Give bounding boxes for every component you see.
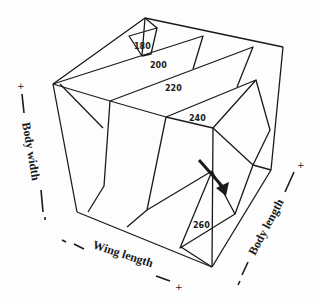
contour-200: 200: [53, 36, 203, 212]
contour-label-200: 200: [150, 61, 167, 70]
contour-label-260: 260: [193, 221, 210, 230]
cube-frame: [53, 18, 283, 267]
wing-length-label: Wing length: [91, 238, 155, 271]
contour-cube-diagram: 180 200 220 240 260 + Body width: [0, 0, 320, 302]
contour-240: 240: [166, 80, 271, 170]
contour-label-240: 240: [189, 114, 206, 123]
contour-220: 220: [110, 47, 253, 227]
body-width-label: Body width: [19, 121, 43, 182]
contour-260: 260: [147, 165, 253, 267]
wing-length-plus: +: [175, 282, 183, 292]
contour-label-180: 180: [134, 42, 151, 51]
contour-label-220: 220: [165, 84, 182, 93]
body-length-label: Body length: [245, 196, 286, 257]
axis-wing-length: Wing length +: [62, 238, 183, 292]
body-width-plus: +: [17, 81, 25, 91]
contour-180: 180: [129, 18, 157, 56]
body-length-plus: +: [297, 160, 305, 170]
axis-body-width: + Body width: [17, 81, 45, 220]
diagram-svg: 180 200 220 240 260 + Body width: [0, 0, 320, 302]
